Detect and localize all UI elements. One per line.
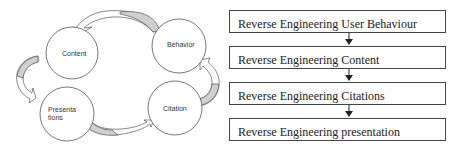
flow-step-presentation: Reverse Engineering presentation bbox=[229, 118, 446, 141]
flow-step-user-behaviour: Reverse Engineering User Behaviour bbox=[229, 10, 446, 33]
node-content: Content bbox=[46, 27, 98, 79]
svg-text:Presenta: Presenta bbox=[48, 106, 76, 113]
arrow-content-to-presentations bbox=[17, 56, 38, 103]
down-arrow-icon bbox=[345, 105, 353, 117]
node-presentations: Presenta tions bbox=[40, 87, 94, 141]
arrow-citation-to-behavior bbox=[198, 58, 219, 106]
node-citation: Citation bbox=[148, 81, 202, 135]
svg-text:Content: Content bbox=[62, 50, 87, 57]
flow-step-citations: Reverse Engineering Citations bbox=[229, 82, 446, 105]
svg-text:Citation: Citation bbox=[163, 105, 187, 112]
svg-text:tions: tions bbox=[48, 114, 63, 121]
down-arrow-icon bbox=[345, 69, 353, 81]
cycle-diagram: Content Behavior Presenta tions Citation bbox=[0, 0, 225, 154]
svg-text:Behavior: Behavior bbox=[167, 41, 195, 48]
down-arrow-icon bbox=[345, 33, 353, 45]
node-behavior: Behavior bbox=[152, 19, 206, 73]
arrow-presentations-to-citation bbox=[84, 120, 154, 135]
flow-step-content: Reverse Engineering Content bbox=[229, 46, 446, 69]
